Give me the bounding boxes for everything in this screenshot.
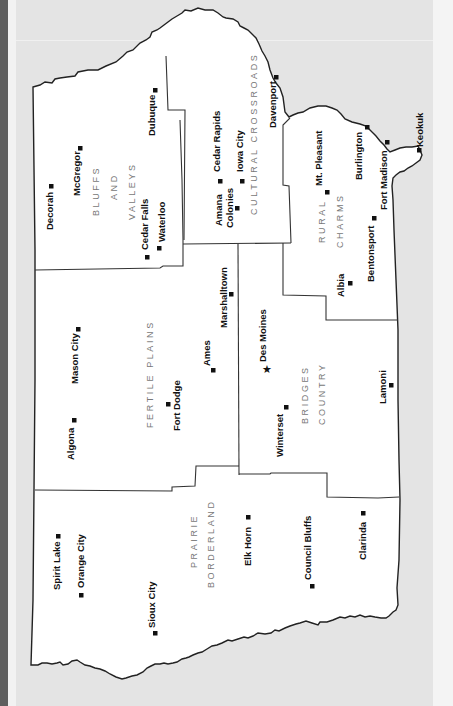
region-label-cultural-crossroads: CULTURAL CROSSROADS xyxy=(249,53,259,215)
city-marker-icon xyxy=(365,125,370,130)
svg-text:Mt. Pleasant: Mt. Pleasant xyxy=(313,130,324,186)
svg-text:AND: AND xyxy=(109,173,119,200)
city-marker-icon xyxy=(153,631,158,636)
svg-text:Cedar Falls: Cedar Falls xyxy=(139,199,150,250)
svg-text:Elk Horn: Elk Horn xyxy=(242,527,253,566)
svg-text:Bentonsport: Bentonsport xyxy=(365,225,376,282)
svg-text:McGregor: McGregor xyxy=(71,151,82,196)
svg-text:Ames: Ames xyxy=(201,340,212,366)
state-outline xyxy=(31,8,422,679)
city-marker-icon xyxy=(325,190,330,195)
city-marker-icon xyxy=(78,146,83,151)
city-marker-icon xyxy=(310,584,315,589)
svg-text:Colonies: Colonies xyxy=(224,188,235,228)
city-bentonsport[interactable]: Bentonsport xyxy=(365,216,377,282)
city-sioux-city[interactable]: Sioux City xyxy=(146,581,158,636)
svg-text:Burlington: Burlington xyxy=(353,132,364,180)
svg-text:Albia: Albia xyxy=(335,273,346,297)
city-marker-icon xyxy=(246,515,251,520)
city-marker-icon xyxy=(166,402,171,407)
svg-text:Council Bluffs: Council Bluffs xyxy=(302,516,313,580)
svg-text:Winterset: Winterset xyxy=(274,413,285,457)
svg-text:Des Moines: Des Moines xyxy=(257,309,268,362)
city-dubuque[interactable]: Dubuque xyxy=(146,88,158,136)
city-marker-icon xyxy=(229,292,234,297)
svg-text:Decorah: Decorah xyxy=(44,192,55,230)
svg-text:COUNTRY: COUNTRY xyxy=(317,362,327,425)
svg-text:Clarinda: Clarinda xyxy=(357,521,368,560)
svg-text:RURAL: RURAL xyxy=(317,199,327,243)
capital-star-icon: ★ xyxy=(262,363,272,375)
city-spirit-lake[interactable]: Spirit Lake xyxy=(51,534,62,590)
city-marker-icon xyxy=(417,148,422,153)
svg-text:Davenport: Davenport xyxy=(267,80,278,128)
city-marker-icon xyxy=(385,140,390,145)
svg-text:Keokuk: Keokuk xyxy=(414,112,425,147)
city-marker-icon xyxy=(361,511,366,516)
svg-text:Amana: Amana xyxy=(213,194,224,226)
city-cedar-rapids[interactable]: Cedar Rapids xyxy=(211,111,223,184)
svg-text:Fort Madison: Fort Madison xyxy=(378,150,389,210)
svg-text:CHARMS: CHARMS xyxy=(335,193,345,248)
svg-text:Dubuque: Dubuque xyxy=(146,95,157,136)
city-mcgregor[interactable]: McGregor xyxy=(71,146,83,196)
svg-text:Spirit Lake: Spirit Lake xyxy=(51,541,62,590)
svg-text:PRAIRIE: PRAIRIE xyxy=(189,514,199,568)
city-orange-city[interactable]: Orange City xyxy=(75,533,86,597)
city-marker-icon xyxy=(72,418,77,423)
city-marker-icon xyxy=(56,534,61,539)
svg-text:Sioux City: Sioux City xyxy=(146,581,157,628)
city-marker-icon xyxy=(218,179,223,184)
city-mason-city[interactable]: Mason City xyxy=(69,327,81,384)
city-marker-icon xyxy=(389,383,394,388)
svg-text:VALLEYS: VALLEYS xyxy=(127,162,137,220)
city-marker-icon xyxy=(372,216,377,221)
iowa-regions-map: BLUFFS AND VALLEYS CULTURAL CROSSROADS R… xyxy=(0,0,453,706)
city-marker-icon xyxy=(153,88,158,93)
city-marker-icon xyxy=(157,246,162,251)
city-cedar-falls[interactable]: Cedar Falls xyxy=(139,199,150,260)
svg-text:Cedar Rapids: Cedar Rapids xyxy=(211,111,222,172)
city-fort-madison[interactable]: Fort Madison xyxy=(378,140,390,210)
svg-text:BORDERLAND: BORDERLAND xyxy=(206,499,216,588)
city-davenport[interactable]: Davenport xyxy=(267,75,279,128)
svg-text:Fort Dodge: Fort Dodge xyxy=(171,380,182,431)
city-marker-icon xyxy=(211,368,216,373)
city-marker-icon xyxy=(235,206,240,211)
svg-text:BLUFFS: BLUFFS xyxy=(91,166,101,216)
svg-text:BRIDGES: BRIDGES xyxy=(300,365,310,424)
city-keokuk[interactable]: Keokuk xyxy=(414,112,425,153)
svg-text:Mason City: Mason City xyxy=(69,333,80,384)
city-marker-icon xyxy=(49,184,54,189)
svg-text:Lamoni: Lamoni xyxy=(377,370,388,404)
svg-text:Algona: Algona xyxy=(65,427,76,460)
city-marker-icon xyxy=(284,405,289,410)
city-marker-icon xyxy=(145,255,150,260)
svg-text:Marshalltown: Marshalltown xyxy=(218,267,229,328)
svg-text:Iowa City: Iowa City xyxy=(234,130,245,172)
region-label-fertile-plains: FERTILE PLAINS xyxy=(145,320,155,428)
city-marker-icon xyxy=(274,75,279,80)
city-marker-icon xyxy=(76,327,81,332)
city-marker-icon xyxy=(240,179,245,184)
svg-text:Waterloo: Waterloo xyxy=(156,202,167,242)
city-marker-icon xyxy=(348,281,353,286)
city-marker-icon xyxy=(79,593,84,598)
city-council-bluffs[interactable]: Council Bluffs xyxy=(302,516,315,589)
svg-text:Orange City: Orange City xyxy=(75,533,86,588)
